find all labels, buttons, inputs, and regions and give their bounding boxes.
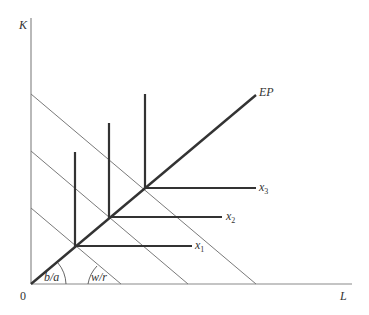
diagram-svg [0, 0, 369, 315]
angle-label-wr: w/r [91, 271, 107, 283]
l-axis-label: L [340, 290, 347, 302]
origin-label: 0 [20, 290, 26, 302]
isoquant-x1-label: x1 [195, 239, 204, 254]
diagram-canvas: K L 0 EP x1 x2 x3 b/a w/r [0, 0, 369, 315]
k-axis-label: K [19, 19, 27, 31]
angle-label-ba: b/a [44, 271, 59, 283]
isoquant-x3-label: x3 [259, 181, 268, 196]
isoquant-x2-label: x2 [226, 210, 235, 225]
ep-label: EP [259, 86, 274, 98]
